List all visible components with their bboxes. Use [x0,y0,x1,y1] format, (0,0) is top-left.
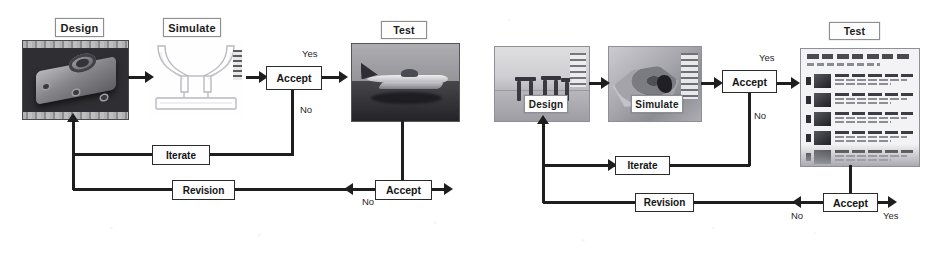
edge-revision-right [233,188,375,191]
result-text-line [835,83,891,85]
test-stage-image [800,48,920,167]
stage-label-design: Design [524,95,568,113]
result-text-line [835,136,907,138]
photo-aircraft-shadow [371,92,442,104]
edge-accept-top-no [748,91,751,166]
arrowhead-design-to-simulate [145,71,154,83]
process-flow-diagram-right: Design Simulate Accept Yes No Test [463,0,926,253]
feedback-box-revision[interactable]: Revision [635,193,694,212]
result-headline [835,93,913,96]
edge-accept-top-no [291,88,294,156]
arrowhead-accept-bottom-exit [888,196,897,208]
process-flow-diagram-left: Design Simulate [0,0,463,253]
photo-aircraft-canopy [401,69,418,77]
result-row [806,73,913,90]
simulation-hotspot [657,75,673,93]
edge-iterate-right [207,153,293,156]
simulate-stage-image: Simulate [608,46,702,122]
edge-label-accept-top-yes: Yes [302,48,318,59]
result-row [806,92,913,109]
arrowhead-design-to-simulate [601,77,610,89]
simulation-color-scale [233,50,242,80]
design-stage-image [22,40,129,120]
stage-label-test: Test [829,22,880,40]
edge-iterate-left [73,153,154,156]
arrowhead-revision-left [344,183,353,195]
photo-aircraft-wing [378,82,444,89]
stone-upright [517,81,521,101]
result-headline [835,131,913,134]
result-text-line [835,140,891,142]
result-thumbnail [814,131,831,145]
stone-lintel [515,77,536,81]
edge-iterate-left [543,164,617,167]
result-row [806,111,913,128]
page-title-line [807,54,911,59]
result-number [806,115,811,123]
edge-revision-left [543,201,636,204]
page-subtitle-line [807,63,880,66]
arrowhead-revision-left [792,196,801,208]
stage-label-test: Test [381,21,427,39]
decision-accept-bottom[interactable]: Accept [375,180,432,200]
result-number [806,134,811,142]
result-thumbnail [814,74,831,88]
result-number [806,96,811,104]
feedback-box-iterate[interactable]: Iterate [152,145,210,165]
arrowhead-return-to-design [67,113,79,122]
edge-revision-right [692,201,823,204]
fea-mesh-outline-icon [148,40,244,118]
result-text-line [835,79,907,81]
photo-metadata-strip [570,53,586,87]
stage-label-design: Design [55,18,104,37]
edge-revision-left [73,188,173,191]
edge-return-to-design [542,124,545,203]
edge-label-accept-top-no: No [754,110,766,121]
test-stage-image [351,43,460,122]
design-stage-image: Design [494,46,590,122]
result-thumbnail [814,93,831,107]
arrowhead-return-to-design [537,115,549,124]
stage-label-simulate: Simulate [163,18,221,37]
result-text-line [835,117,907,119]
stone-lintel [541,76,561,80]
simulate-stage-image [148,40,244,118]
arrowhead-accept-top-yes [791,77,800,89]
feedback-box-iterate[interactable]: Iterate [615,156,670,175]
result-number [806,77,811,85]
edge-label-accept-top-no: No [300,104,312,115]
edge-test-to-accept-bottom [849,165,852,195]
image-top-strip [23,41,128,48]
result-text-line [835,102,891,104]
result-headline [835,112,913,115]
edge-design-to-simulate [128,76,146,79]
edge-test-to-accept-bottom [401,120,404,182]
edge-label-accept-bottom-no: No [791,210,803,221]
result-text-line [835,121,891,123]
arrowhead-accept-top-yes [339,71,348,83]
result-text-line [835,98,907,100]
simulation-legend-strip [681,53,698,99]
edge-return-to-design [72,122,75,190]
decision-accept-top[interactable]: Accept [722,70,777,93]
result-headline [835,74,913,77]
feedback-box-revision[interactable]: Revision [172,180,235,200]
decision-accept-bottom[interactable]: Accept [823,193,878,212]
edge-label-accept-bottom-yes: Yes [883,210,899,221]
page-bottom-fade [801,144,919,166]
edge-label-accept-top-yes: Yes [759,52,775,63]
edge-label-accept-bottom-no: No [362,196,374,207]
edge-iterate-right [668,164,750,167]
photo-horizon [495,90,589,91]
decision-accept-top[interactable]: Accept [266,66,322,90]
arrowhead-accept-bottom-exit [444,183,453,195]
stage-label-simulate: Simulate [631,95,683,113]
result-thumbnail [814,112,831,126]
cad-part-hole [101,94,107,100]
edge-accept-top-yes [321,76,341,79]
